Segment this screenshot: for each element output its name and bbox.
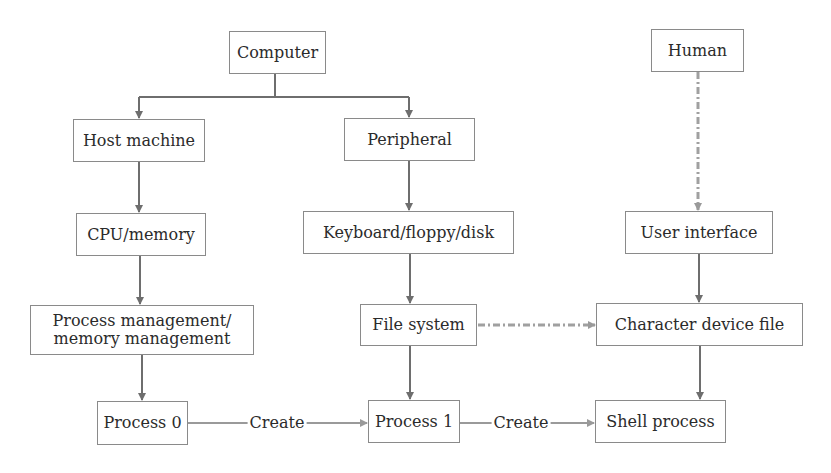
node-label: Process 0	[103, 414, 181, 432]
node-label: Process 1	[375, 413, 453, 431]
node-user-interface: User interface	[625, 211, 773, 254]
node-host-machine: Host machine	[73, 119, 205, 162]
node-process-0: Process 0	[97, 401, 188, 445]
node-label: CPU/memory	[87, 226, 195, 244]
node-label: Human	[668, 42, 727, 60]
node-label: Computer	[237, 44, 318, 62]
diagram-canvas: Create Create Computer Human Host machin…	[0, 0, 831, 473]
node-keyboard-floppy-disk: Keyboard/floppy/disk	[303, 211, 514, 254]
node-label: Process management/ memory management	[52, 312, 231, 348]
node-label: User interface	[641, 224, 758, 242]
node-file-system: File system	[360, 304, 477, 346]
create-label-process1: Create	[492, 414, 551, 432]
node-label: Keyboard/floppy/disk	[323, 224, 494, 242]
node-peripheral: Peripheral	[344, 118, 475, 161]
node-process-1: Process 1	[368, 400, 460, 443]
node-label: Shell process	[606, 413, 714, 431]
node-computer: Computer	[229, 31, 326, 74]
node-label: File system	[372, 316, 464, 334]
node-process-memory-management: Process management/ memory management	[30, 305, 254, 355]
node-shell-process: Shell process	[595, 400, 726, 443]
node-label: Peripheral	[367, 131, 452, 149]
node-label: Host machine	[83, 132, 195, 150]
create-label-process0: Create	[248, 414, 307, 432]
node-character-device-file: Character device file	[596, 303, 803, 346]
node-label: Character device file	[615, 316, 785, 334]
node-human: Human	[651, 29, 744, 72]
node-cpu-memory: CPU/memory	[76, 213, 206, 256]
edge-computer-split	[139, 74, 409, 118]
